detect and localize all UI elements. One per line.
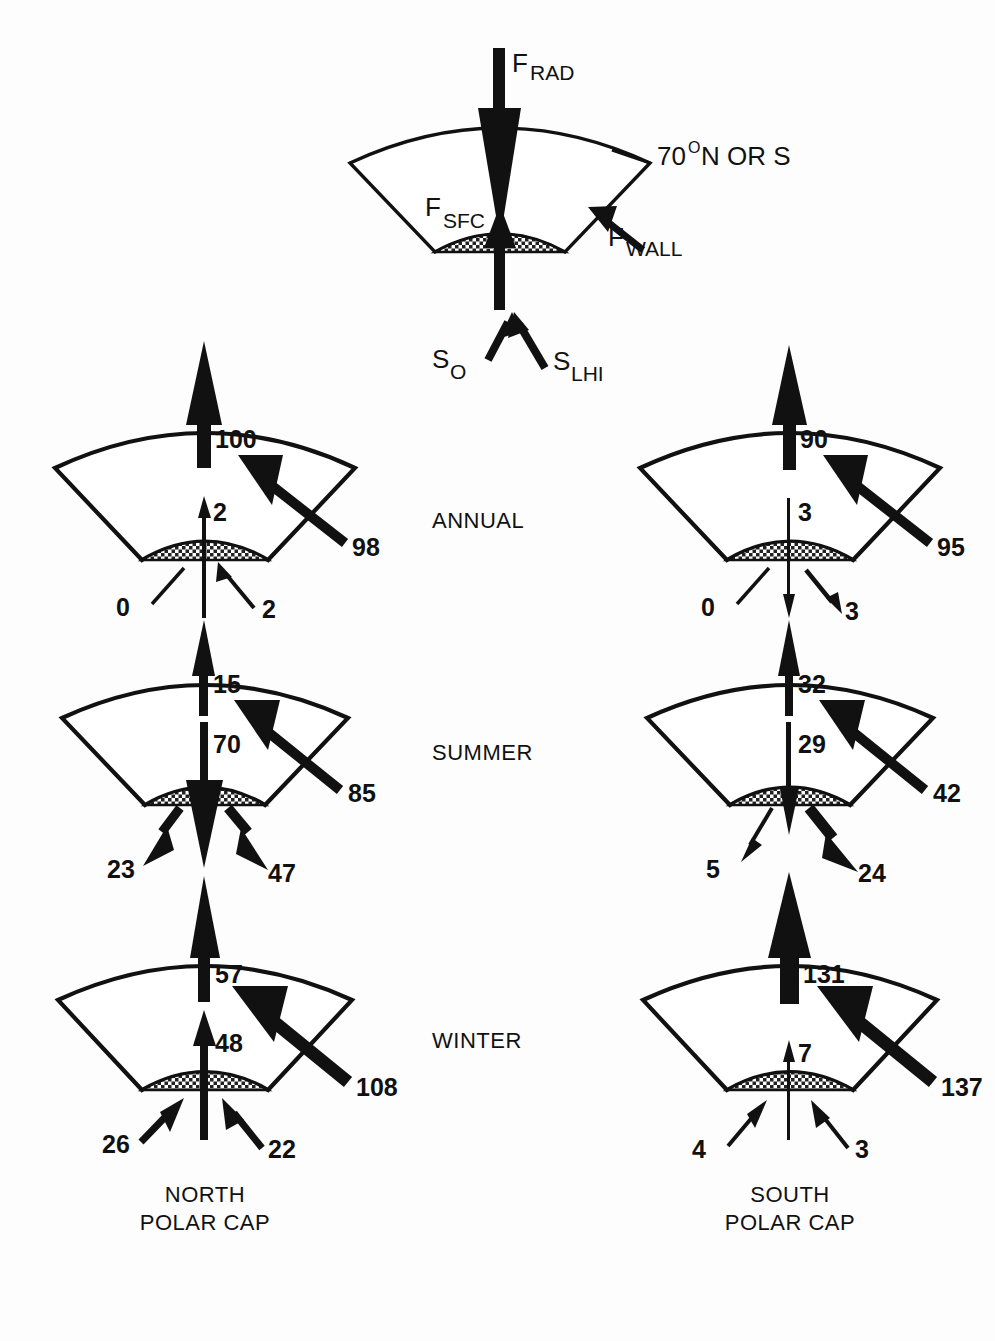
key-f-sfc-sublabel: SFC [443,209,485,232]
s-o-value: 0 [116,593,130,621]
f-sfc-value: 7 [798,1039,812,1067]
panel-south-summer: 32 29 42 5 24 [647,620,961,887]
key-s-lhi-sublabel: LHI [571,362,604,385]
s-o-value: 5 [706,855,720,883]
s-lhi-arrow [806,570,842,614]
f-rad-value: 100 [215,425,257,453]
key-s-lhi-arrow [508,312,545,368]
s-lhi-arrow [222,1098,262,1148]
s-lhi-value: 3 [845,597,859,625]
f-wall-value: 85 [348,779,376,807]
row-label-summer: SUMMER [432,740,533,765]
s-lhi-arrow [216,562,254,608]
f-rad-value: 32 [798,670,826,698]
f-rad-value: 90 [800,425,828,453]
f-wall-value: 108 [356,1073,398,1101]
f-rad-value: 57 [215,960,243,988]
f-rad-value: 131 [803,960,845,988]
key-s-o-label: S [432,344,449,374]
panel-north-annual: 100 2 98 0 2 [55,341,380,623]
s-lhi-value: 3 [855,1135,869,1163]
caption-south-line1: SOUTH [750,1182,830,1207]
s-o-value: 23 [107,855,135,883]
caption-south-polar-cap: SOUTH POLAR CAP [725,1182,855,1235]
panel-south-annual: 90 3 95 0 3 [640,345,965,625]
f-wall-value: 98 [352,533,380,561]
s-lhi-arrow [811,1100,848,1148]
key-s-lhi-label: S [553,346,570,376]
polar-cap-energy-balance-diagram: F RAD F SFC F WALL 70 O N OR S S O [0,0,995,1341]
key-f-sfc-label: F [425,192,441,222]
caption-north-line1: NORTH [165,1182,245,1207]
caption-north-polar-cap: NORTH POLAR CAP [140,1182,270,1235]
f-sfc-value: 2 [213,498,227,526]
row-label-annual: ANNUAL [432,508,524,533]
s-lhi-value: 22 [268,1135,296,1163]
s-lhi-arrow [809,808,858,872]
key-latitude-hemisphere: N OR S [701,141,791,171]
s-o-arrow [141,1098,184,1142]
s-o-arrow [152,568,184,604]
s-lhi-value: 24 [858,859,886,887]
f-wall-value: 42 [933,779,961,807]
s-o-value: 0 [701,593,715,621]
key-panel: F RAD F SFC F WALL 70 O N OR S S O [350,48,791,385]
caption-south-line2: POLAR CAP [725,1210,855,1235]
key-f-rad-sublabel: RAD [530,61,574,84]
caption-north-line2: POLAR CAP [140,1210,270,1235]
s-o-value: 4 [692,1135,706,1163]
s-lhi-value: 47 [268,859,296,887]
key-f-wall-label: F [608,222,624,252]
s-lhi-arrow [228,808,268,870]
key-f-rad-label: F [512,48,528,78]
figure-canvas: F RAD F SFC F WALL 70 O N OR S S O [0,0,995,1341]
key-latitude-value: 70 [657,141,686,171]
key-latitude-degree-symbol: O [688,139,700,156]
s-o-arrow [741,808,772,862]
s-o-arrow [737,568,769,604]
f-wall-value: 137 [941,1073,983,1101]
f-sfc-value: 3 [798,498,812,526]
panel-south-winter: 131 7 137 4 3 [643,872,983,1163]
key-s-o-sublabel: O [450,360,466,383]
f-sfc-value: 48 [215,1029,243,1057]
row-label-winter: WINTER [432,1028,522,1053]
s-o-value: 26 [102,1130,130,1158]
f-sfc-value: 29 [798,730,826,758]
s-o-arrow [143,808,180,866]
panel-north-winter: 57 48 108 26 22 [58,876,398,1163]
f-rad-value: 15 [213,670,241,698]
s-o-arrow [728,1100,767,1146]
s-lhi-value: 2 [262,595,276,623]
f-wall-value: 95 [937,533,965,561]
key-f-wall-sublabel: WALL [626,237,682,260]
panel-north-summer: 15 70 85 23 47 [62,620,376,887]
f-sfc-value: 70 [213,730,241,758]
